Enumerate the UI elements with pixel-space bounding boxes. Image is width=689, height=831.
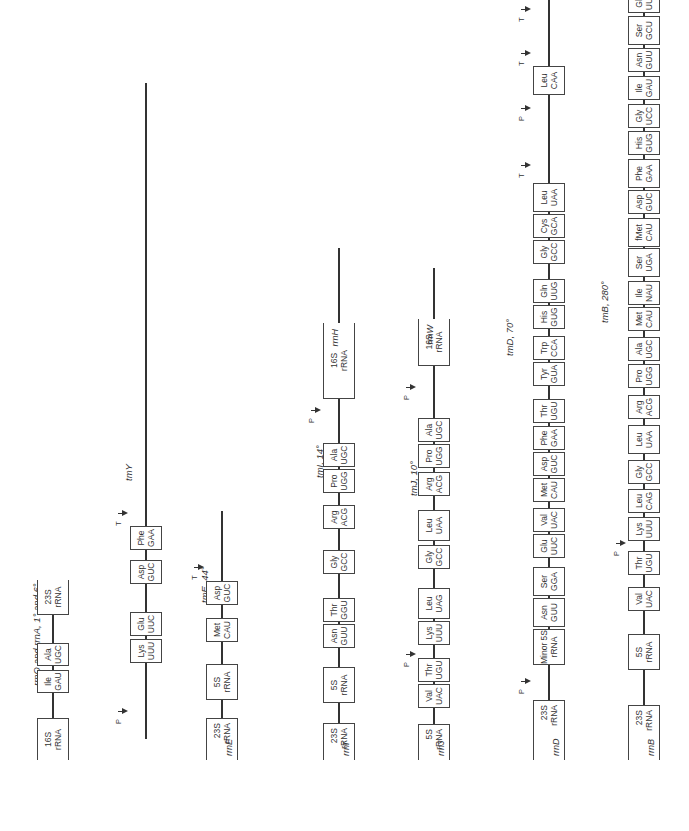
gene-label: 5S <box>329 680 339 690</box>
gene-label: Ile <box>634 84 644 93</box>
gene-box: SerGCU <box>628 16 660 45</box>
promoter-arrow-icon: P <box>516 671 528 685</box>
gene-anticodon: UGC <box>339 446 349 465</box>
gene-anticodon: GUU <box>644 51 654 70</box>
gene-box: ArgACG <box>323 505 355 529</box>
gene-label: Arg <box>329 510 339 523</box>
gene-box: GlyGCC <box>323 550 355 574</box>
gene-label: Thr <box>424 664 434 677</box>
gene-anticodon: GCC <box>549 243 559 262</box>
gene-box: GluUUC <box>533 534 565 558</box>
gene-label: Pro <box>424 449 434 462</box>
gene-anticodon: GAA <box>146 529 156 547</box>
operon-rrnY: LysUUUGluUUCAspGUCPheGAAPT <box>126 0 166 831</box>
gene-box: PheGAA <box>130 526 162 550</box>
gene-label: Trp <box>539 342 549 354</box>
gene-label: Glu <box>539 539 549 552</box>
gene-label: Asp <box>539 457 549 472</box>
gene-anticodon: UAC <box>549 511 559 529</box>
gene-box: GlyGCC <box>533 240 565 264</box>
gene-box: 5SrRNA <box>323 667 355 703</box>
gene-box: AlaUGC <box>418 418 450 442</box>
gene-label: Cys <box>539 219 549 234</box>
gene-anticodon: UAG <box>434 594 444 612</box>
gene-label: Pro <box>329 474 339 487</box>
gene-label: Ile <box>634 289 644 298</box>
gene-anticodon: ACG <box>434 475 444 493</box>
operon-rrnB: 23SrRNArrnB5SrRNAValUACThrUGULysUUULeuCA… <box>624 0 664 831</box>
gene-box: 23SrRNArrnB <box>628 705 660 760</box>
gene-anticodon: rRNA <box>339 675 349 696</box>
gene-box: GlnUUG <box>533 279 565 303</box>
gene-label: Met <box>634 312 644 326</box>
gene-label: 5S <box>212 677 222 687</box>
gene-box: LeuUAA <box>418 510 450 541</box>
gene-box: AspGUC <box>130 560 162 584</box>
gene-label: Gly <box>329 556 339 569</box>
gene-label: Ser <box>634 24 644 37</box>
gene-label: Minor 5S <box>539 630 549 664</box>
gene-anticodon: GUA <box>549 365 559 383</box>
gene-label: 23S <box>539 705 549 720</box>
gene-label: Met <box>212 623 222 637</box>
gene-box: GluUUC <box>628 0 660 13</box>
gene-box: HisGUG <box>533 305 565 329</box>
operon-rrnJ: 5SrRNArrnJValUACThrUGULysUUULeuUAGGlyGCC… <box>414 0 454 831</box>
gene-label: Glu <box>136 617 146 630</box>
gene-label: Lys <box>136 645 146 658</box>
terminator-arrow-icon: T <box>113 503 125 517</box>
gene-box: LeuUAA <box>533 183 565 212</box>
gene-box: ThrUGU <box>533 399 565 423</box>
operon-map-diagram: rrnO and rrnA, 1° and 6°16SrRNAIleGAUAla… <box>0 0 689 831</box>
marker-label: P <box>307 418 316 423</box>
gene-label: Ser <box>634 256 644 269</box>
gene-box: LysUUU <box>130 639 162 663</box>
gene-box: IleGAU <box>628 76 660 100</box>
gene-box: 23SrRNArrnI <box>323 723 355 760</box>
gene-label: Thr <box>539 405 549 418</box>
gene-anticodon: rRNA <box>434 332 444 353</box>
gene-label: Pro <box>634 369 644 382</box>
gene-anticodon: UCC <box>644 107 654 125</box>
gene-label: Thr <box>329 604 339 617</box>
promoter-arrow-icon: P <box>516 98 528 112</box>
gene-anticodon: CAA <box>549 72 559 89</box>
gene-anticodon: GAA <box>644 165 654 183</box>
gene-anticodon: UGC <box>53 645 63 664</box>
gene-box: 5SrRNA <box>206 664 238 700</box>
gene-anticodon: UUC <box>549 537 559 555</box>
gene-label: His <box>634 137 644 149</box>
gene-anticodon: rRNA <box>53 587 63 608</box>
gene-anticodon: GGU <box>339 600 349 619</box>
gene-anticodon: CAU <box>644 224 654 242</box>
gene-label: 23S <box>212 723 222 738</box>
gene-anticodon: GUG <box>644 133 654 152</box>
gene-label: Thr <box>634 557 644 570</box>
gene-box: LysUUU <box>418 621 450 645</box>
gene-anticodon: CCA <box>549 339 559 357</box>
gene-anticodon: GUC <box>644 193 654 212</box>
gene-anticodon: UUG <box>549 282 559 301</box>
gene-box: MetCAU <box>206 618 238 642</box>
operon-name-label: rrnW <box>425 325 435 345</box>
gene-anticodon: GAA <box>549 429 559 447</box>
gene-anticodon: UAA <box>434 517 444 534</box>
gene-label: 16S <box>329 353 339 368</box>
gene-anticodon: UUC <box>146 615 156 633</box>
gene-anticodon: GCU <box>644 21 654 40</box>
gene-label: Gly <box>539 246 549 259</box>
gene-box: fMetCAU <box>628 218 660 247</box>
gene-label: Gly <box>424 551 434 564</box>
gene-box: 23SrRNArrnD <box>533 700 565 760</box>
marker-label: P <box>612 551 621 556</box>
gene-box: ValUAC <box>628 587 660 611</box>
operon-rrnE: 23SrRNArrnE5SrRNAMetCAUAspGUCT <box>202 0 242 831</box>
gene-anticodon: CAU <box>222 621 232 639</box>
gene-anticodon: rRNA <box>53 729 63 750</box>
gene-anticodon: CAG <box>644 492 654 510</box>
gene-label: Glu <box>634 0 644 8</box>
gene-box: ThrGGU <box>323 598 355 622</box>
arrow-head-icon <box>525 50 531 56</box>
gene-anticodon: rRNA <box>644 710 654 731</box>
promoter-arrow-icon: P <box>401 377 413 391</box>
